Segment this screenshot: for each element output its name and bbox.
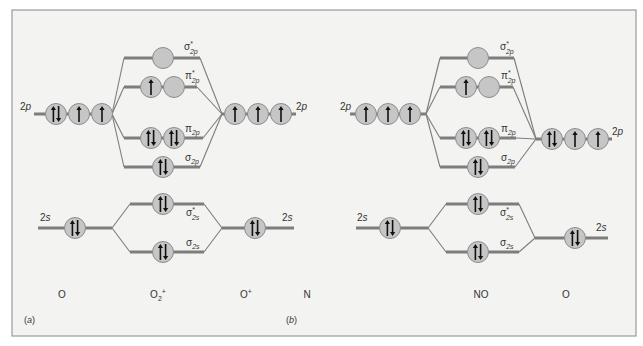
orbital-circle — [400, 104, 421, 125]
mo-diagram-canvas: 2p2pσ*2pπ*2pπ2pσ2p2sσ*2sσ2s2sOO2+O+(a)2p… — [0, 0, 643, 346]
orbital-circle — [468, 48, 489, 69]
orbital-circle — [380, 218, 401, 239]
orbital-circle — [468, 242, 489, 263]
orbital-circle — [248, 104, 269, 125]
orbital-circle — [153, 48, 174, 69]
figure-frame — [12, 10, 636, 336]
orbital-circle — [565, 129, 586, 150]
orbital-label: 2s — [40, 212, 51, 223]
orbital-label: 2s — [282, 212, 293, 223]
orbital-circle — [565, 228, 586, 249]
orbital-label: 2p — [612, 126, 624, 137]
orbital-circle — [588, 129, 609, 150]
orbital-label: 2p — [20, 101, 32, 112]
orbital-label: 2p — [296, 101, 308, 112]
orbital-circle — [164, 128, 185, 149]
orbital-circle — [542, 129, 563, 150]
orbital-circle — [479, 128, 500, 149]
orbital-circle — [456, 128, 477, 149]
orbital-circle — [65, 218, 86, 239]
orbital-circle — [245, 218, 266, 239]
mo-diagram-figure: 2p2pσ*2pπ*2pπ2pσ2p2sσ*2sσ2s2sOO2+O+(a)2p… — [0, 0, 643, 346]
orbital-circle — [153, 242, 174, 263]
species-label: O — [58, 289, 66, 300]
panel-label: (b) — [286, 315, 297, 325]
orbital-circle — [164, 77, 185, 98]
orbital-circle — [153, 157, 174, 178]
orbital-circle — [468, 157, 489, 178]
orbital-circle — [271, 104, 292, 125]
orbital-circle — [456, 77, 477, 98]
orbital-circle — [153, 194, 174, 215]
orbital-circle — [468, 194, 489, 215]
species-label: O — [562, 289, 570, 300]
orbital-circle — [46, 104, 67, 125]
species-label: N — [303, 289, 310, 300]
orbital-circle — [69, 104, 90, 125]
panel-label: (a) — [24, 315, 35, 325]
orbital-circle — [141, 128, 162, 149]
species-label: NO — [474, 289, 489, 300]
orbital-label: 2p — [340, 101, 352, 112]
orbital-circle — [141, 77, 162, 98]
orbital-circle — [92, 104, 113, 125]
orbital-label: 2s — [596, 222, 607, 233]
orbital-circle — [225, 104, 246, 125]
orbital-circle — [479, 77, 500, 98]
orbital-circle — [356, 104, 377, 125]
orbital-label: 2s — [357, 212, 368, 223]
orbital-circle — [378, 104, 399, 125]
